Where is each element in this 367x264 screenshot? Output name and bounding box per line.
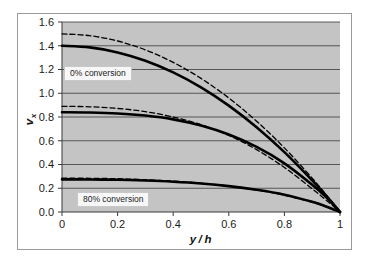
y-tick-label: 0.4 [39, 158, 54, 170]
y-axis-title: v x [23, 113, 38, 125]
annotation-80-percent-conversion: 80% conversion [77, 192, 149, 207]
y-axis-ticks [58, 22, 62, 212]
x-tick-label: 0 [59, 218, 65, 230]
chart-canvas: 0.00.20.40.60.81.01.21.41.6 00.20.40.60.… [0, 0, 367, 264]
x-tick-label: 0.4 [166, 218, 181, 230]
x-tick-label: 1 [337, 218, 343, 230]
y-tick-label: 1.0 [39, 87, 54, 99]
y-tick-label: 1.4 [39, 40, 54, 52]
y-axis-title-subscript: x [29, 113, 38, 119]
x-axis-title-numerator: y [189, 233, 197, 245]
y-tick-label: 0.6 [39, 135, 54, 147]
y-axis-title-main: v [23, 118, 35, 125]
x-axis-tick-labels: 00.20.40.60.81 [59, 218, 343, 230]
x-axis-title-denominator: h [204, 233, 211, 245]
y-tick-label: 1.2 [39, 63, 54, 75]
x-axis-title: y / h [189, 233, 212, 245]
x-tick-label: 0.6 [221, 218, 236, 230]
y-tick-label: 0.2 [39, 182, 54, 194]
x-axis-ticks [62, 212, 340, 216]
x-tick-label: 0.2 [110, 218, 125, 230]
x-axis-title-slash: / [197, 233, 203, 245]
y-tick-label: 0.8 [39, 111, 54, 123]
y-tick-label: 1.6 [39, 16, 54, 28]
y-axis-tick-labels: 0.00.20.40.60.81.01.21.41.6 [39, 16, 54, 218]
x-tick-label: 0.8 [277, 218, 292, 230]
y-tick-label: 0.0 [39, 206, 54, 218]
annotation-0-percent-conversion: 0% conversion [64, 66, 132, 81]
